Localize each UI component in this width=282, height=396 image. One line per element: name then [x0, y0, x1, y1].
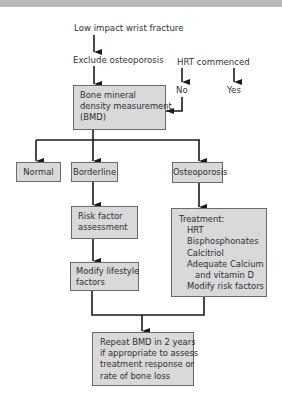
bmd-line-3: (BMD): [80, 112, 159, 123]
exclude-osteoporosis-label: Exclude osteoporosis: [73, 56, 164, 65]
hrt-yes-label: Yes: [227, 86, 241, 95]
treatment-item-modify-risk: Modify risk factors: [179, 281, 259, 292]
osteoporosis-label: Osteoporosis: [173, 167, 222, 178]
modify-lifestyle-box: Modify lifestyle factors: [70, 262, 139, 291]
normal-label: Normal: [17, 167, 60, 178]
risk-line-2: assessment: [78, 222, 131, 233]
treatment-item-hrt: HRT: [179, 225, 259, 236]
hrt-commenced-label: HRT commenced: [177, 58, 250, 67]
lifestyle-line-1: Modify lifestyle: [76, 266, 133, 277]
repeat-line-4: rate of bone loss: [100, 371, 186, 382]
treatment-item-calcitriol: Calcitriol: [179, 248, 259, 259]
repeat-line-3: treatment response or: [100, 359, 186, 370]
bmd-line-1: Bone mineral: [80, 90, 159, 101]
repeat-bmd-box: Repeat BMD in 2 years if appropriate to …: [92, 332, 194, 386]
borderline-label: Borderline: [72, 167, 117, 178]
start-label: Low impact wrist fracture: [74, 24, 184, 33]
borderline-box: Borderline: [71, 162, 118, 182]
treatment-item-vitamin-d: and vitamin D: [179, 270, 259, 281]
treatment-box: Treatment: HRT Bisphosphonates Calcitrio…: [171, 208, 267, 297]
treatment-item-bisphosphonates: Bisphosphonates: [179, 236, 259, 247]
normal-box: Normal: [16, 162, 61, 182]
risk-line-1: Risk factor: [78, 211, 131, 222]
repeat-line-1: Repeat BMD in 2 years: [100, 337, 186, 348]
bmd-line-2: density measurement: [80, 101, 159, 112]
risk-factor-assessment-box: Risk factor assessment: [71, 206, 138, 239]
hrt-no-label: No: [176, 86, 188, 95]
osteoporosis-box: Osteoporosis: [172, 162, 223, 183]
treatment-heading: Treatment:: [179, 214, 259, 225]
lifestyle-line-2: factors: [76, 277, 133, 288]
repeat-line-2: if appropriate to assess: [100, 348, 186, 359]
treatment-item-calcium: Adequate Calcium: [179, 259, 259, 270]
bmd-measurement-box: Bone mineral density measurement (BMD): [73, 85, 166, 130]
